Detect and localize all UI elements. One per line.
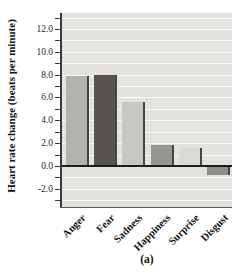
bar-anger	[66, 76, 89, 166]
gridline	[62, 18, 232, 19]
bar-sadness	[122, 102, 145, 166]
figure-caption: (a)	[62, 253, 232, 265]
bar-fear	[94, 75, 117, 166]
y-tick-label: 6.0	[24, 92, 53, 102]
y-tick-label: 0.0	[24, 161, 53, 171]
bar-chart-figure: Heart rate change (beats per minute) -2.…	[0, 0, 245, 278]
x-label-surprise: Surprise	[167, 212, 202, 247]
zero-line	[62, 165, 232, 167]
bar-happiness	[151, 145, 174, 166]
plot-area	[62, 13, 232, 207]
y-tick-label: 2.0	[24, 138, 53, 148]
bar-surprise	[179, 148, 202, 166]
gridline	[62, 177, 232, 178]
x-label-anger: Anger	[60, 212, 88, 240]
plot-bottom-border	[60, 207, 232, 208]
gridline	[62, 29, 232, 30]
bar-disgust	[207, 166, 230, 175]
gridline	[62, 189, 232, 190]
y-tick-label: 12.0	[24, 24, 53, 34]
gridline	[62, 200, 232, 201]
x-label-disgust: Disgust	[198, 212, 229, 243]
gridline	[62, 52, 232, 53]
y-tick-label: 8.0	[24, 70, 53, 80]
x-label-fear: Fear	[94, 212, 117, 235]
gridline	[62, 63, 232, 64]
y-tick-label: 4.0	[24, 115, 53, 125]
y-axis-title: Heart rate change (beats per minute)	[5, 6, 17, 206]
y-axis-line	[60, 13, 62, 207]
y-tick-label: -2.0	[24, 184, 53, 194]
y-tick-label: 10.0	[24, 47, 53, 57]
gridline	[62, 40, 232, 41]
